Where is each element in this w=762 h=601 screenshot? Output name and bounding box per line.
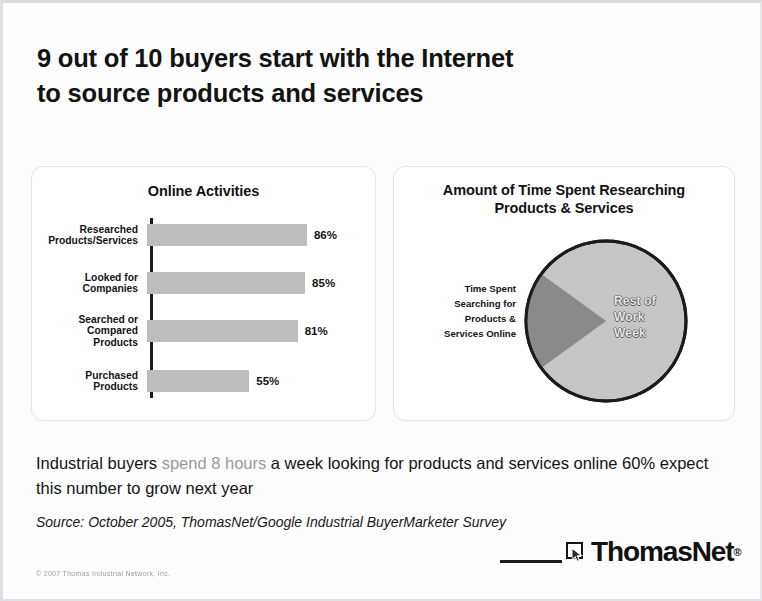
table-row: Looked for Companies 85% — [32, 266, 375, 300]
thomasnet-logo-text: ThomasNet — [591, 538, 734, 566]
title-line-2: to source products and services — [37, 76, 677, 111]
pie-title-line-1: Amount of Time Spent Researching — [394, 181, 734, 199]
bar-label-purchased: Purchased Products — [32, 370, 144, 393]
bar-track: 86% — [144, 224, 375, 246]
pie-inner-label-line: Work — [614, 309, 656, 325]
pie-svg — [522, 237, 690, 405]
pie-inner-label-line: Rest of — [614, 293, 656, 309]
trademark-icon: ® — [734, 546, 742, 558]
table-row: Purchased Products 55% — [32, 364, 375, 398]
pie-label-line: Products & — [406, 311, 516, 326]
page-title: 9 out of 10 buyers start with the Intern… — [37, 41, 677, 111]
online-activities-chart-panel: Online Activities Researched Products/Se… — [31, 166, 376, 421]
bar-looked-for-companies — [147, 272, 305, 294]
pie-inner-label-line: Week — [614, 325, 656, 341]
pie-chart-title: Amount of Time Spent Researching Product… — [394, 181, 734, 217]
thomasnet-logo[interactable]: ThomasNet ® — [566, 538, 742, 566]
pie-chart: Time Spent Searching for Products & Serv… — [394, 229, 734, 429]
cursor-square-icon — [566, 541, 588, 563]
bar-value-searched-compared: 81% — [305, 325, 328, 337]
title-line-1: 9 out of 10 buyers start with the Intern… — [37, 44, 513, 72]
bar-value-researched: 86% — [314, 229, 337, 241]
pie-label-line: Searching for — [406, 296, 516, 311]
pie-slice-label-rest-of-work-week: Rest of Work Week — [614, 293, 656, 341]
pie-graphic: Rest of Work Week — [522, 237, 690, 405]
bar-label-line: Companies — [32, 283, 138, 295]
bar-track: 81% — [144, 320, 375, 342]
table-row: Researched Products/Services 86% — [32, 218, 375, 252]
slide-page: 9 out of 10 buyers start with the Intern… — [0, 0, 762, 601]
bar-label-line: Searched or — [32, 314, 138, 326]
bar-label-line: Products — [32, 381, 138, 393]
bar-label-line: Products — [32, 337, 138, 349]
bar-track: 85% — [144, 272, 375, 294]
table-row: Searched or Compared Products 81% — [32, 314, 375, 348]
bar-value-looked-for-companies: 85% — [312, 277, 335, 289]
summary-text-before: Industrial buyers — [36, 454, 162, 472]
pie-label-line: Services Online — [406, 326, 516, 341]
logo-divider — [500, 560, 562, 563]
bar-label-line: Products/Services — [32, 235, 138, 247]
bar-label-line: Looked for — [32, 272, 138, 284]
bar-label-line: Researched — [32, 224, 138, 236]
bar-chart-title: Online Activities — [32, 182, 375, 200]
pie-slice-label-time-spent: Time Spent Searching for Products & Serv… — [406, 281, 516, 341]
bar-researched — [147, 224, 307, 246]
summary-highlight: spend 8 hours — [162, 454, 267, 472]
pie-title-line-2: Products & Services — [394, 199, 734, 217]
bar-label-line: Compared — [32, 325, 138, 337]
bar-track: 55% — [144, 370, 375, 392]
bar-label-looked-for-companies: Looked for Companies — [32, 272, 144, 295]
bar-label-line: Purchased — [32, 370, 138, 382]
bar-value-purchased: 55% — [256, 375, 279, 387]
bar-label-searched-compared: Searched or Compared Products — [32, 314, 144, 349]
copyright-notice: © 2007 Thomas Industrial Network, Inc. — [36, 569, 170, 578]
bar-label-researched: Researched Products/Services — [32, 224, 144, 247]
pie-label-line: Time Spent — [406, 281, 516, 296]
time-spent-chart-panel: Amount of Time Spent Researching Product… — [393, 166, 735, 421]
bar-searched-compared — [147, 320, 298, 342]
bar-chart: Researched Products/Services 86% Looked … — [32, 218, 375, 403]
bar-purchased — [147, 370, 249, 392]
source-citation: Source: October 2005, ThomasNet/Google I… — [36, 513, 696, 531]
summary-text: Industrial buyers spend 8 hours a week l… — [36, 451, 726, 501]
